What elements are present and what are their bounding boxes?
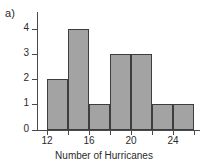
histogram-bar <box>89 104 110 130</box>
x-tick-label-24: 24 <box>167 136 178 146</box>
histogram-bar <box>110 54 131 130</box>
histogram-bar <box>131 54 152 130</box>
y-tick-label-0: 0 <box>23 124 29 134</box>
panel-label: a) <box>5 8 15 19</box>
x-tick-edge <box>110 131 111 135</box>
x-tick-label-12: 12 <box>41 136 52 146</box>
y-tick-0: 0 <box>32 130 37 131</box>
x-tick-edge <box>68 131 69 135</box>
y-tick-label-4: 4 <box>23 23 29 33</box>
y-tick-label-1: 1 <box>23 98 29 108</box>
histogram-figure: a) 0 1 2 3 4 <box>0 0 208 168</box>
x-tick-edge <box>194 131 195 135</box>
y-tick-1: 1 <box>32 104 37 105</box>
y-tick-4: 4 <box>32 29 37 30</box>
x-axis-title: Number of Hurricanes <box>0 150 208 161</box>
y-axis-line <box>37 12 38 131</box>
y-tick-label-2: 2 <box>23 73 29 83</box>
histogram-bar <box>173 104 194 130</box>
histogram-bar <box>152 104 173 130</box>
x-tick-edge <box>152 131 153 135</box>
histogram-bar <box>68 29 89 130</box>
x-tick-label-16: 16 <box>83 136 94 146</box>
plot-area: 0 1 2 3 4 12 16 20 24 <box>37 12 200 131</box>
histogram-bar <box>47 79 68 130</box>
y-tick-3: 3 <box>32 54 37 55</box>
y-tick-label-3: 3 <box>23 48 29 58</box>
y-tick-2: 2 <box>32 79 37 80</box>
x-tick-label-20: 20 <box>125 136 136 146</box>
x-axis-line <box>37 130 200 131</box>
